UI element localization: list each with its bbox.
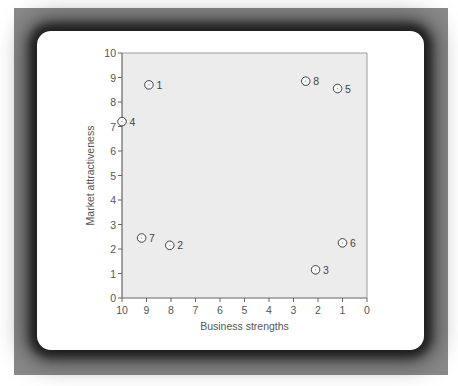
- x-tick-label: 7: [193, 304, 199, 316]
- y-tick-label: 4: [110, 194, 116, 206]
- point-label: 6: [350, 237, 356, 249]
- y-tick-label: 10: [104, 47, 116, 59]
- point-label: 5: [345, 83, 351, 95]
- y-tick-label: 9: [110, 72, 116, 84]
- x-tick-label: 5: [242, 304, 248, 316]
- x-tick-label: 3: [291, 304, 297, 316]
- marker-center-dot: [342, 242, 343, 243]
- marker-center-dot: [169, 245, 170, 246]
- x-tick-label: 0: [364, 304, 370, 316]
- y-tick-label: 6: [110, 145, 116, 157]
- point-label: 1: [156, 79, 162, 91]
- y-axis-title: Market attractiveness: [84, 126, 96, 226]
- y-tick-label: 5: [110, 170, 116, 182]
- x-tick-label: 9: [144, 304, 150, 316]
- marker-center-dot: [305, 81, 306, 82]
- y-tick-label: 7: [110, 121, 116, 133]
- y-tick-label: 1: [110, 268, 116, 280]
- x-tick-label: 2: [315, 304, 321, 316]
- marker-center-dot: [337, 88, 338, 89]
- marker-center-dot: [148, 84, 149, 85]
- scatter-chart: 109876543210012345678910 12345678 Busine…: [0, 0, 458, 386]
- point-label: 3: [323, 264, 329, 276]
- marker-center-dot: [315, 269, 316, 270]
- marker-center-dot: [141, 237, 142, 238]
- y-tick-label: 3: [110, 219, 116, 231]
- x-tick-label: 6: [217, 304, 223, 316]
- x-axis-title: Business strengths: [200, 320, 289, 332]
- x-tick-label: 1: [340, 304, 346, 316]
- x-tick-label: 10: [116, 304, 128, 316]
- point-label: 8: [313, 75, 319, 87]
- y-tick-label: 0: [110, 292, 116, 304]
- point-label: 2: [177, 239, 183, 251]
- point-label: 4: [130, 116, 136, 128]
- y-tick-label: 2: [110, 243, 116, 255]
- x-tick-label: 8: [168, 304, 174, 316]
- x-tick-label: 4: [266, 304, 272, 316]
- point-label: 7: [149, 232, 155, 244]
- y-tick-label: 8: [110, 96, 116, 108]
- marker-center-dot: [121, 121, 122, 122]
